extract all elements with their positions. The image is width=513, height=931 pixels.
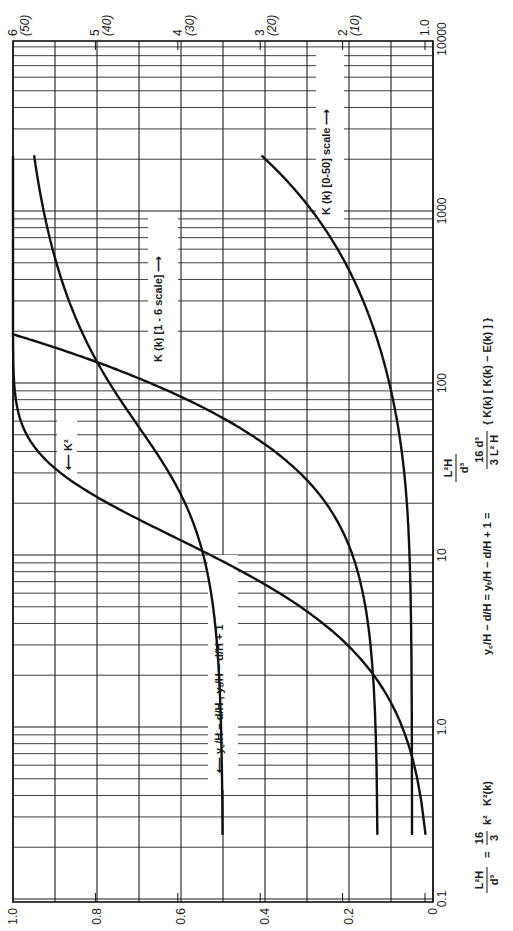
x-tick-label: 10000: [435, 22, 449, 56]
yc-ratio-curve: [34, 156, 222, 834]
eq2-coef-numerator: 16 d³: [473, 437, 485, 463]
scale-1-6-label: 1.0: [418, 19, 432, 36]
equation-1: L²H d³ = 16 3 k² K²(k): [473, 781, 500, 893]
y-tick-label: 0: [426, 908, 440, 915]
scale-0-50-label: (40): [100, 15, 114, 36]
y-tick-label: 1.0: [6, 908, 20, 925]
k-1-6-scale-label: K (k) [1 - 6 scale] ⟶: [152, 256, 164, 362]
y-tick-label: 0.4: [258, 908, 272, 925]
eq2-lhs: y꜀/H − d/H = yₜ/H − d/H + 1 =: [481, 513, 493, 655]
eq1-coef-denominator: 3: [488, 835, 500, 841]
eq1-equals: =: [481, 852, 493, 858]
k-0-50-scale-label: K (k) [0-50] scale ⟶: [320, 109, 332, 215]
scale-0-50-label: (30): [183, 15, 197, 36]
eq1-coef-numerator: 16: [473, 832, 485, 844]
x-tick-label: 1000: [435, 197, 449, 224]
x-axis-title: L²H d³: [442, 454, 470, 482]
k-squared-label: ⟵ K²: [62, 439, 74, 470]
x-axis-title-denominator: d³: [458, 462, 470, 473]
k-0-50-scale-curve: [262, 156, 412, 834]
eq1-lhs-denominator: d³: [488, 874, 500, 885]
x-tick-label: 1.0: [435, 718, 449, 735]
x-tick-label: 100: [435, 373, 449, 393]
label-backgrounds: [57, 50, 344, 790]
x-tick-label: 0.1: [435, 890, 449, 907]
eq1-rest: k² K²(k): [481, 781, 493, 825]
y-tick-label: 0.6: [174, 908, 188, 925]
scale-0-50-label: (50): [18, 15, 32, 36]
yc-ratio-label: ⟵ y꜀/H − d/H , yₜ/H − d/H + 1: [213, 624, 225, 773]
x-axis-title-numerator: L²H: [442, 459, 454, 477]
equation-2: y꜀/H − d/H = yₜ/H − d/H + 1 = 16 d³ 3 L²…: [473, 317, 500, 655]
y-tick-label: 0.2: [342, 908, 356, 925]
chart: 00.20.40.60.81.00.11.0101001000100001.02…: [0, 0, 513, 931]
eq2-coef-denominator: 3 L² H: [488, 435, 500, 466]
eq2-rest: { K(k) [ K(k) − E(k) ] }: [481, 317, 493, 425]
x-tick-label: 10: [435, 548, 449, 562]
scale-0-50-label: (20): [265, 15, 279, 36]
scale-0-50-label: (10): [348, 15, 362, 36]
y-tick-label: 0.8: [90, 908, 104, 925]
eq1-lhs-numerator: L²H: [473, 871, 485, 889]
